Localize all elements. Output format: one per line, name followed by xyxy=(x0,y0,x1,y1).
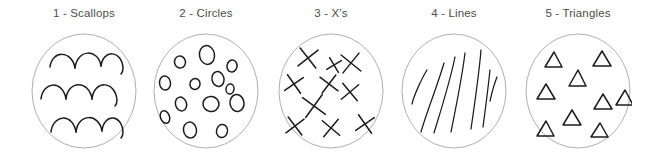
panel-lines: 4 - Lines xyxy=(389,0,519,156)
panel-label-scallops: 1 - Scallops xyxy=(19,7,149,19)
panel-drawing-scallops xyxy=(30,32,138,150)
panel-xs: 3 - X’s xyxy=(266,0,396,156)
dish-outline xyxy=(279,34,383,148)
panel-drawing-triangles xyxy=(524,32,632,150)
panel-drawing-lines xyxy=(400,32,508,150)
dish-outline xyxy=(32,34,136,148)
panel-label-triangles: 5 - Triangles xyxy=(513,7,643,19)
dish-outline xyxy=(402,34,506,148)
panel-label-circles: 2 - Circles xyxy=(141,7,271,19)
panel-circles: 2 - Circles xyxy=(141,0,271,156)
panel-drawing-xs xyxy=(277,32,385,150)
panel-label-xs: 3 - X’s xyxy=(266,7,396,19)
panel-scallops: 1 - Scallops xyxy=(19,0,149,156)
pattern-legend-figure: 1 - Scallops 2 - Circles xyxy=(0,0,653,156)
panel-label-lines: 4 - Lines xyxy=(389,7,519,19)
dish-outline xyxy=(154,34,258,148)
panel-triangles: 5 - Triangles xyxy=(513,0,643,156)
panel-drawing-circles xyxy=(152,32,260,150)
